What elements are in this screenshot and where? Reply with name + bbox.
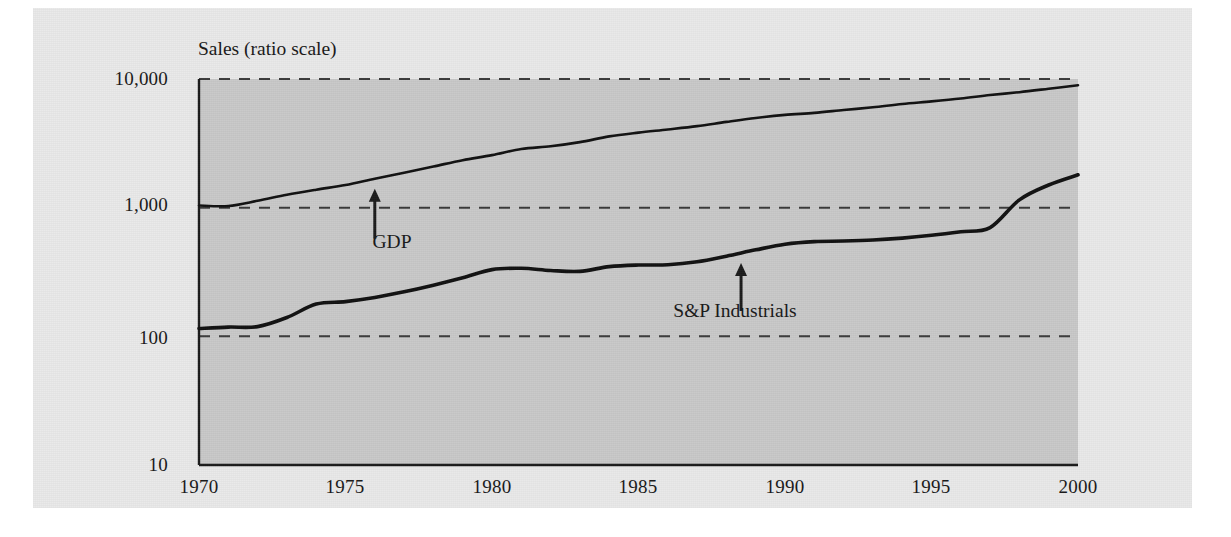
x-tick-label-1995: 1995 (886, 476, 976, 498)
sales-ratio-scale-chart (0, 0, 1231, 537)
plot-area (199, 79, 1078, 465)
chart-page: Sales (ratio scale) 10,000 1,000 100 10 … (0, 0, 1231, 537)
y-tick-label-100: 100 (48, 327, 168, 349)
x-tick-label-2000: 2000 (1033, 476, 1123, 498)
annotation-label-sp-industrials: S&P Industrials (620, 300, 850, 322)
x-tick-label-1985: 1985 (593, 476, 683, 498)
x-tick-label-1970: 1970 (154, 476, 244, 498)
x-tick-label-1975: 1975 (300, 476, 390, 498)
y-axis-title: Sales (ratio scale) (198, 38, 337, 60)
x-tick-label-1990: 1990 (740, 476, 830, 498)
annotation-label-gdp: GDP (337, 231, 447, 253)
y-tick-label-1000: 1,000 (48, 194, 168, 216)
y-tick-label-10000: 10,000 (48, 68, 168, 90)
x-tick-label-1980: 1980 (447, 476, 537, 498)
y-tick-label-10: 10 (48, 454, 168, 476)
